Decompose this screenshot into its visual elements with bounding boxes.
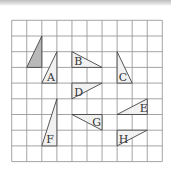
triangle-label-d: D [74,86,83,99]
grid-diagram: ABCDEFGH [0,0,171,169]
triangle-label-h: H [119,133,129,146]
triangle-label-c: C [119,71,127,84]
triangle-label-a: A [46,71,56,84]
triangle-label-b: B [74,55,82,68]
triangle-label-f: F [46,133,54,146]
triangle-label-e: E [140,102,148,115]
triangle-label-g: G [92,116,101,129]
